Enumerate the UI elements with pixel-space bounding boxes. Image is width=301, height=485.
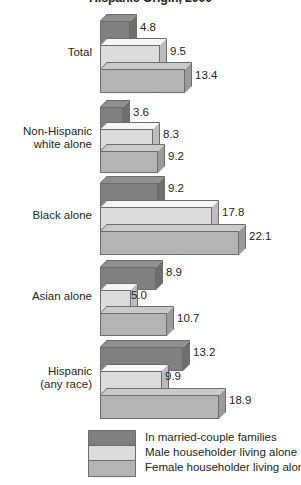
bar-group-asian-alone: Asian alone 8.9 5.0 10.7 [0,260,301,338]
value-asian-female: 10.7 [177,312,199,324]
legend-swatch-female [89,461,135,476]
category-label-asian-alone: Asian alone [0,290,92,303]
chart-plot-area: Total 4.8 9.5 13.4 Non-Hispanic white al… [0,0,301,425]
bar-front-face [100,69,185,93]
value-total-female: 13.4 [195,69,217,81]
bar-group-non-hispanic-white-alone: Non-Hispanic white alone 3.6 8.3 9.2 [0,100,301,176]
legend-swatch-stack [88,430,136,477]
legend-label-male: Male householder living alone [145,445,301,460]
bar-group-hispanic-any-race: Hispanic (any race) 13.2 9.9 18.9 [0,340,301,420]
bar-front-face [100,313,167,336]
bar-top-face [100,224,246,231]
bar-top-face [100,122,160,129]
value-black-male: 17.8 [222,206,244,218]
bar-top-face [100,388,226,395]
value-nhw-married: 3.6 [133,106,149,118]
value-hispanic-female: 18.9 [229,394,251,406]
legend-swatch-male [89,446,135,461]
legend-label-female: Female householder living alone [145,460,301,475]
value-asian-married: 8.9 [166,266,182,278]
bar-group-black-alone: Black alone 9.2 17.8 22.1 [0,176,301,258]
legend-label-stack: In married-couple families Male househol… [145,430,301,477]
bar-black-female [100,231,239,255]
value-asian-male: 5.0 [131,289,147,301]
bar-total-female [100,69,185,93]
bar-top-face [100,144,165,151]
bar-front-face [100,395,219,419]
bar-top-face [100,62,192,69]
value-hispanic-married: 13.2 [193,346,215,358]
bar-top-face [100,306,174,313]
bar-top-face [100,176,165,183]
bar-top-face [100,364,169,371]
value-black-married: 9.2 [168,182,184,194]
value-total-married: 4.8 [140,21,156,33]
legend-swatch-married [89,431,135,446]
bar-asian-female [100,313,167,336]
value-nhw-male: 8.3 [163,128,179,140]
chart-legend: In married-couple families Male househol… [88,430,301,477]
bar-group-total: Total 4.8 9.5 13.4 [0,14,301,94]
category-label-hispanic-any-race: Hispanic (any race) [0,365,92,391]
value-total-male: 9.5 [170,45,186,57]
bar-nhw-female [100,151,158,173]
bar-top-face [100,340,190,347]
bar-top-face [100,260,163,267]
value-black-female: 22.1 [249,230,271,242]
bar-front-face [100,231,239,255]
legend-label-married: In married-couple families [145,430,301,445]
bar-top-face [100,200,219,207]
category-label-non-hispanic-white-alone: Non-Hispanic white alone [0,125,92,151]
bar-hispanic-female [100,395,219,419]
category-label-total: Total [0,46,92,59]
bar-front-face [100,151,158,173]
value-hispanic-male: 9.9 [165,370,181,382]
category-label-black-alone: Black alone [0,209,92,222]
bar-top-face [100,38,167,45]
value-nhw-female: 9.2 [168,150,184,162]
